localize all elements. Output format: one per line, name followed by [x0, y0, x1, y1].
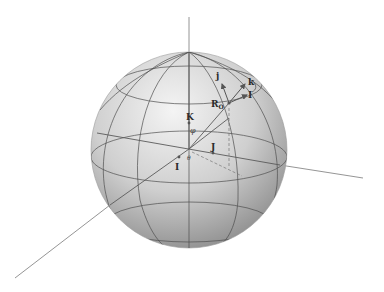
- label-global-z: K: [186, 112, 195, 122]
- x-axis-outer: [15, 205, 110, 278]
- label-local-j: j: [215, 71, 219, 81]
- y-axis-outer: [280, 165, 363, 178]
- label-local-k: k: [248, 77, 255, 87]
- label-theta: θ: [187, 154, 191, 161]
- label-global-y: J: [210, 142, 215, 152]
- label-global-x: I: [175, 162, 179, 172]
- sphere-diagram: j k I RO K φ J I θ: [0, 0, 384, 292]
- label-local-i: I: [248, 90, 252, 100]
- label-phi: φ: [190, 126, 196, 135]
